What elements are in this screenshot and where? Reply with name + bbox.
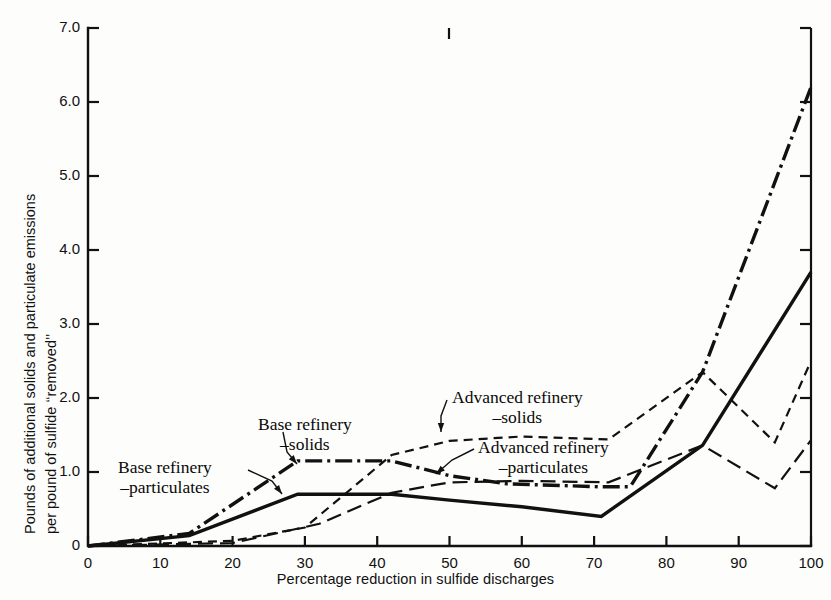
x-tick-label: 20 — [208, 554, 258, 571]
y-tick-label: 6.0 — [20, 92, 80, 109]
x-tick-label: 70 — [569, 554, 619, 571]
annotation-line1: Advanced refinery — [452, 387, 583, 407]
series-line-base_particulates — [88, 272, 811, 546]
x-tick-label: 30 — [280, 554, 330, 571]
y-tick-label: 5.0 — [20, 166, 80, 183]
y-tick-label: 3.0 — [20, 314, 80, 331]
x-tick-label: 90 — [714, 554, 764, 571]
x-tick-label: 100 — [786, 554, 831, 571]
x-axis-title: Percentage reduction in sulfide discharg… — [0, 571, 831, 587]
series-line-advanced_solids — [88, 361, 811, 546]
y-tick-label: 7.0 — [20, 18, 80, 35]
y-axis-title-line2: per pound of sulfide ‘‘removed’’ — [41, 334, 62, 534]
x-tick-label: 40 — [352, 554, 402, 571]
annotation-line2: –solids — [258, 435, 352, 455]
y-tick-label: 2.0 — [20, 388, 80, 405]
annotation-line1: Advanced refinery — [478, 437, 609, 457]
chart-figure: Pounds of additional solids and particul… — [0, 0, 831, 600]
annotation-line2: –solids — [452, 408, 583, 428]
x-tick-label: 80 — [641, 554, 691, 571]
annotation-base_solids_label: Base refinery–solids — [258, 415, 352, 454]
annotation-advanced_solids_label: Advanced refinery–solids — [452, 388, 583, 427]
leader-arrow-advanced_solids_label — [438, 423, 444, 432]
x-tick-label: 50 — [425, 554, 475, 571]
y-tick-label: 0 — [20, 536, 80, 553]
x-tick-label: 60 — [497, 554, 547, 571]
annotation-base_particulates_label: Base refinery–particulates — [118, 458, 212, 497]
x-axis-ticks — [88, 536, 811, 546]
annotation-line1: Base refinery — [118, 457, 212, 477]
annotation-advanced_particulates_label: Advanced refinery–particulates — [478, 438, 609, 477]
annotation-line1: Base refinery — [258, 414, 352, 434]
chart-plot-area — [0, 0, 831, 600]
annotation-line2: –particulates — [118, 478, 212, 498]
annotation-line2: –particulates — [478, 458, 609, 478]
x-tick-label: 10 — [135, 554, 185, 571]
y-tick-label: 1.0 — [20, 462, 80, 479]
x-tick-label: 0 — [63, 554, 113, 571]
y-tick-label: 4.0 — [20, 240, 80, 257]
